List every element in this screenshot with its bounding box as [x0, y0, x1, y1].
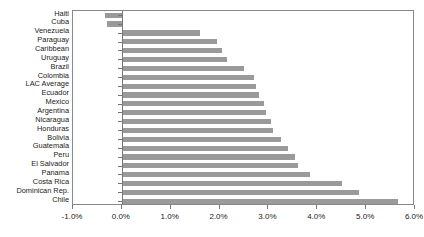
bar-row: [73, 153, 413, 162]
value-tick-label: 2.0%: [209, 212, 227, 221]
bar-row: [73, 179, 413, 188]
value-tick: [267, 205, 268, 209]
bar-row: [73, 46, 413, 55]
value-tick: [170, 205, 171, 209]
bar-row: [73, 135, 413, 144]
bar: [122, 163, 298, 168]
value-tick-label: 6.0%: [405, 212, 423, 221]
value-tick-label: -1.0%: [62, 212, 83, 221]
bar: [122, 75, 254, 80]
plot-area: [72, 10, 414, 205]
bar-row: [73, 188, 413, 197]
bar: [122, 101, 264, 106]
bar-row: [73, 29, 413, 38]
bar-row: [73, 162, 413, 171]
zero-axis-line: [122, 11, 123, 204]
bar: [122, 181, 342, 186]
bar-row: [73, 55, 413, 64]
value-tick: [414, 205, 415, 209]
bar: [122, 172, 310, 177]
value-tick: [72, 205, 73, 209]
bar: [122, 190, 359, 195]
bar: [122, 137, 281, 142]
bar-row: [73, 91, 413, 100]
bar: [122, 199, 398, 204]
bar-row: [73, 126, 413, 135]
value-tick: [365, 205, 366, 209]
bar: [122, 57, 227, 62]
bar: [122, 154, 295, 159]
bar: [122, 92, 259, 97]
bar: [122, 128, 273, 133]
bar: [122, 30, 200, 35]
value-tick-label: 0.0%: [112, 212, 130, 221]
value-tick-label: 3.0%: [258, 212, 276, 221]
bar: [122, 84, 256, 89]
bar: [122, 39, 217, 44]
value-tick: [316, 205, 317, 209]
bar: [122, 119, 271, 124]
bar: [122, 146, 288, 151]
bar-row: [73, 64, 413, 73]
bar-rows: [73, 11, 413, 204]
bar-row: [73, 171, 413, 180]
bar-row: [73, 20, 413, 29]
bar: [122, 110, 266, 115]
value-axis: -1.0%0.0%1.0%2.0%3.0%4.0%5.0%6.0%: [72, 205, 414, 237]
bar-row: [73, 82, 413, 91]
bar-chart: HaitiCubaVenezuelaParaguayCaribbeanUrugu…: [0, 0, 424, 237]
value-tick: [121, 205, 122, 209]
bar-row: [73, 144, 413, 153]
bar-row: [73, 11, 413, 20]
bar-row: [73, 73, 413, 82]
value-tick-label: 1.0%: [161, 212, 179, 221]
bar-row: [73, 100, 413, 109]
bar: [122, 48, 222, 53]
value-tick-label: 4.0%: [307, 212, 325, 221]
bar: [122, 66, 244, 71]
bar-row: [73, 117, 413, 126]
bar-row: [73, 109, 413, 118]
value-tick-label: 5.0%: [356, 212, 374, 221]
bar-row: [73, 38, 413, 47]
category-axis-labels: HaitiCubaVenezuelaParaguayCaribbeanUrugu…: [0, 10, 69, 205]
category-label: Chile: [0, 196, 69, 205]
value-tick: [219, 205, 220, 209]
